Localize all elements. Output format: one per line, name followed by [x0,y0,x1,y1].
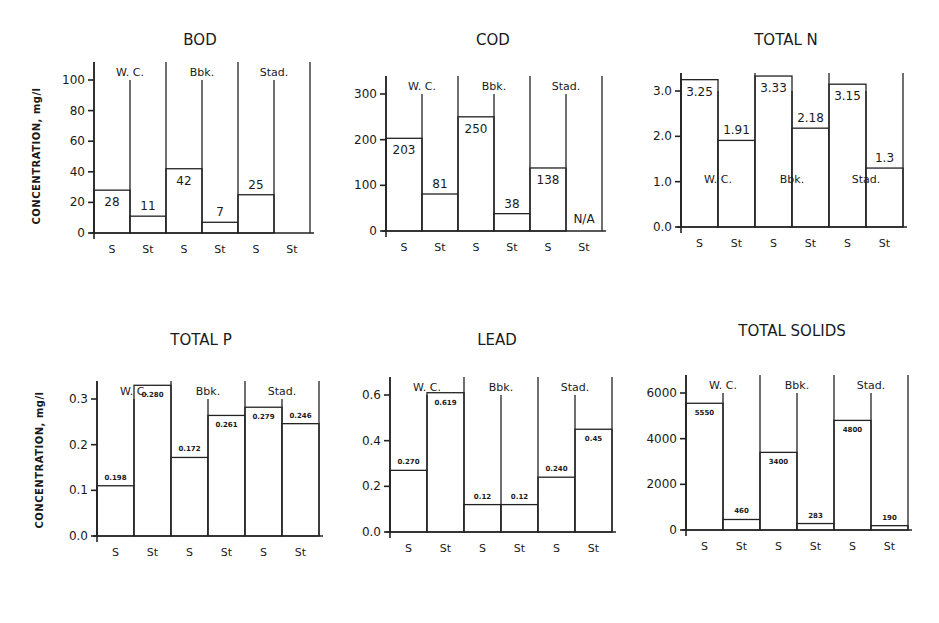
bar-value-label: 11 [140,199,155,213]
x-category-label: S [844,237,851,250]
y-tick-label: 0.0 [653,220,672,234]
bar-value-label: 0.270 [397,458,419,466]
bar-value-label: 203 [393,143,416,157]
x-category-label: S [112,546,119,559]
bar [686,403,723,530]
bar-value-label: 0.12 [511,493,528,501]
bar-value-label: 0.246 [289,412,311,420]
y-tick-label: 0 [77,226,85,240]
site-label: Stad. [268,385,297,398]
bar [208,415,245,536]
bar-value-label: 28 [104,195,119,209]
y-tick-label: 0.3 [69,392,88,406]
bar-value-label: 138 [537,173,560,187]
bar-value-label: 250 [465,122,488,136]
y-tick-label: 100 [354,178,377,192]
bar-value-label: 460 [734,507,749,515]
x-category-label: S [775,540,782,553]
bar [238,195,274,233]
bar-value-label: 3.33 [760,81,787,95]
y-tick-label: 100 [62,73,85,87]
bar [797,524,834,530]
x-category-label: S [181,243,188,256]
bar-value-label: 0.280 [141,391,163,399]
site-label: Bbk. [780,173,804,186]
chart-title: TOTAL SOLIDS [737,322,846,340]
bar-value-label: 2.18 [797,111,824,125]
y-tick-label: 2000 [646,477,677,491]
x-category-label: St [506,241,518,254]
bar-value-label: 0.45 [585,435,602,443]
bar [494,214,530,231]
site-label: Bbk. [785,379,809,392]
site-label: Bbk. [482,80,506,93]
x-category-label: S [405,542,412,555]
x-category-label: St [440,542,452,555]
x-category-label: St [810,540,822,553]
y-tick-label: 80 [70,104,85,118]
y-tick-label: 0 [369,224,377,238]
x-category-label: St [731,237,743,250]
y-tick-label: 0 [669,523,677,537]
y-tick-label: 4000 [646,432,677,446]
bar [829,84,866,227]
x-category-label: S [696,237,703,250]
x-category-label: St [805,237,817,250]
x-category-label: St [879,237,891,250]
bar [134,385,171,536]
bar [202,222,238,233]
x-category-label: S [253,243,260,256]
x-category-label: St [736,540,748,553]
y-tick-label: 0.0 [69,529,88,543]
x-category-label: S [473,241,480,254]
x-category-label: S [553,542,560,555]
chart-title: COD [476,31,510,49]
bar-value-label: 3.15 [834,89,861,103]
x-category-label: St [588,542,600,555]
bar-value-label: 0.198 [104,474,126,482]
bar-value-label: 42 [176,174,191,188]
bar [723,519,760,530]
y-tick-label: 0.4 [362,434,381,448]
x-category-label: St [214,243,226,256]
bar-value-label: 0.12 [474,493,491,501]
site-label: Bbk. [489,381,513,394]
x-category-label: S [186,546,193,559]
x-category-label: St [221,546,233,559]
bar-value-label: N/A [573,212,595,226]
bar-value-label: 25 [248,178,263,192]
bar-value-label: 5550 [695,409,715,417]
x-category-label: St [142,243,154,256]
chart-title: BOD [183,31,216,49]
bar [130,216,166,233]
y-tick-label: 0.1 [69,483,88,497]
bar [390,470,427,532]
bar-value-label: 81 [432,177,447,191]
bar-value-label: 3400 [769,458,789,466]
x-category-label: S [479,542,486,555]
bar-value-label: 0.240 [545,465,567,473]
bar [464,505,501,532]
bar-value-label: 38 [504,197,519,211]
bar-value-label: 1.3 [875,151,894,165]
site-label: Stad. [552,80,581,93]
bar-value-label: 0.261 [215,421,237,429]
site-label: Stad. [260,66,289,79]
bar-value-label: 283 [808,512,823,520]
y-tick-label: 0.2 [362,479,381,493]
bar [755,76,792,227]
bar [681,80,718,227]
chart-title: TOTAL N [753,31,818,49]
y-tick-label: 3.0 [653,84,672,98]
site-label: W. C. [116,66,144,79]
bar-value-label: 1.91 [723,123,750,137]
site-label: Stad. [857,379,886,392]
bar-value-label: 0.619 [434,399,456,407]
y-tick-label: 0.0 [362,525,381,539]
x-category-label: St [286,243,298,256]
y-tick-label: 20 [70,195,85,209]
site-label: W. C. [413,381,441,394]
bar-value-label: 7 [216,205,224,219]
site-label: W. C. [709,379,737,392]
x-category-label: St [514,542,526,555]
